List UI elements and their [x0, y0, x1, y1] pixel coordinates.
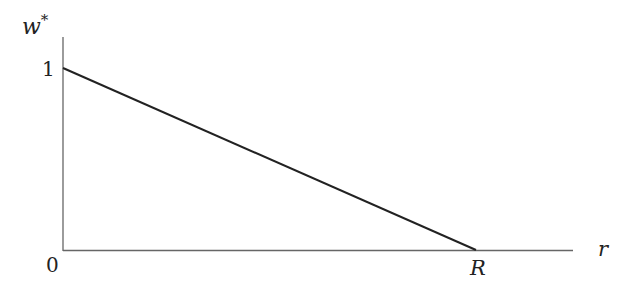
diagram: w* 1 0 R r	[0, 0, 626, 282]
y-tick-1: 1	[42, 57, 55, 81]
x-axis-label: r	[598, 237, 610, 261]
origin-label: 0	[46, 253, 59, 277]
x-tick-R: R	[469, 256, 486, 280]
data-line	[63, 68, 476, 250]
y-axis-label: w*	[22, 11, 49, 39]
